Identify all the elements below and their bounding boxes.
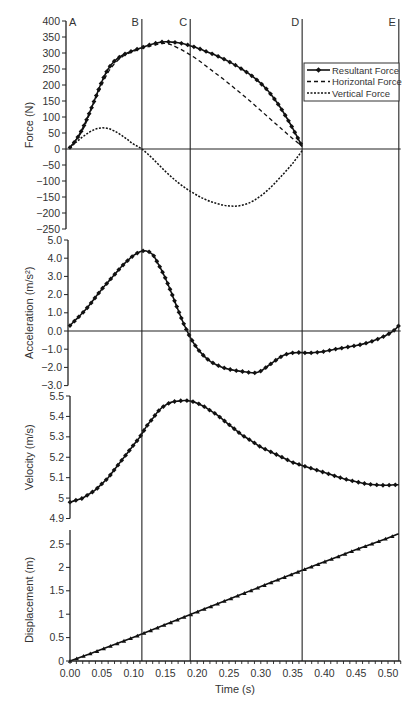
velocity-y-tick-label: 4.9 xyxy=(49,512,64,524)
displacement-y-tick-label: 0.5 xyxy=(49,631,64,643)
data-marker xyxy=(374,483,379,488)
data-marker xyxy=(308,466,313,471)
data-marker xyxy=(381,334,386,339)
data-marker xyxy=(165,281,170,286)
data-marker xyxy=(297,462,302,467)
x-axis-label: Time (s) xyxy=(215,683,255,695)
data-marker xyxy=(358,342,363,347)
data-marker xyxy=(192,44,197,49)
x-tick-label: 0.50 xyxy=(378,667,399,679)
x-tick-label: 0.15 xyxy=(155,667,176,679)
velocity-y-tick-label: 5.1 xyxy=(49,471,64,483)
data-marker xyxy=(333,347,338,352)
data-marker xyxy=(228,367,233,372)
force-y-tick-label: 200 xyxy=(42,79,60,91)
x-tick-label: 0.10 xyxy=(123,667,144,679)
acceleration-y-tick-label: 3.0 xyxy=(47,270,62,282)
displacement-y-axis-label: Displacement (m) xyxy=(23,557,35,643)
data-marker xyxy=(356,480,361,485)
data-marker xyxy=(168,287,173,292)
data-marker xyxy=(370,339,375,344)
data-marker xyxy=(240,369,245,374)
force-series-resultant-force xyxy=(70,42,302,148)
force-y-tick-label: 150 xyxy=(42,95,60,107)
acceleration-y-tick-label: 0.0 xyxy=(47,325,62,337)
displacement-y-tick-label: 2 xyxy=(58,561,64,573)
velocity-y-axis-label: Velocity (m/s) xyxy=(23,424,35,490)
displacement-series-displacement xyxy=(70,534,399,661)
force-series-vertical-force xyxy=(70,128,302,206)
text-layer: 400350300250200150100500−50−100−150−200−… xyxy=(23,15,398,696)
force-y-tick-label: 350 xyxy=(42,31,60,43)
event-label-b: B xyxy=(132,16,139,28)
legend: Resultant ForceHorizontal ForceVertical … xyxy=(304,63,402,101)
plot-layer xyxy=(68,39,401,662)
data-marker xyxy=(73,498,78,503)
velocity-y-tick-label: 5.5 xyxy=(49,390,64,402)
data-marker xyxy=(179,41,184,46)
data-marker xyxy=(177,310,182,315)
data-marker xyxy=(263,447,268,452)
force-y-tick-label: −100 xyxy=(36,175,60,187)
data-marker xyxy=(178,398,183,403)
axes-layer xyxy=(62,19,401,664)
acceleration-y-tick-label: 4.0 xyxy=(47,252,62,264)
acceleration-y-tick-label: 2.0 xyxy=(47,288,62,300)
data-marker xyxy=(216,54,221,59)
data-marker xyxy=(179,316,184,321)
x-tick-label: 0.35 xyxy=(282,667,303,679)
data-marker xyxy=(375,337,380,342)
displacement-y-tick-label: 1.5 xyxy=(49,584,64,596)
event-label-e: E xyxy=(388,16,395,28)
biomechanics-chart: 400350300250200150100500−50−100−150−200−… xyxy=(0,0,419,711)
data-marker xyxy=(196,401,201,406)
data-marker xyxy=(185,398,190,403)
velocity-y-tick-label: 5.3 xyxy=(49,430,64,442)
data-marker xyxy=(393,482,398,487)
force-y-axis-label: Force (N) xyxy=(23,102,35,148)
force-y-tick-label: 250 xyxy=(42,63,60,75)
data-marker xyxy=(185,43,190,48)
data-marker xyxy=(362,481,367,486)
data-marker xyxy=(350,478,355,483)
data-marker xyxy=(172,298,177,303)
data-marker xyxy=(252,370,257,375)
force-y-tick-label: −50 xyxy=(42,159,60,171)
legend-label: Resultant Force xyxy=(332,65,399,76)
data-marker xyxy=(303,464,308,469)
data-marker xyxy=(321,349,326,354)
legend-label: Horizontal Force xyxy=(332,76,402,87)
data-marker xyxy=(320,470,325,475)
force-series-horizontal-force xyxy=(70,43,302,147)
force-y-tick-label: 50 xyxy=(48,127,60,139)
data-marker xyxy=(296,350,301,355)
force-y-tick-label: −200 xyxy=(36,207,60,219)
x-tick-label: 0.30 xyxy=(251,667,272,679)
data-marker xyxy=(234,368,239,373)
data-marker xyxy=(339,346,344,351)
acceleration-y-tick-label: −1.0 xyxy=(41,343,62,355)
data-marker xyxy=(170,293,175,298)
acceleration-y-tick-label: 1.0 xyxy=(47,306,62,318)
acceleration-y-tick-label: 5.0 xyxy=(47,234,62,246)
data-marker xyxy=(291,460,296,465)
data-marker xyxy=(326,471,331,476)
data-marker xyxy=(174,304,179,309)
x-tick-label: 0.05 xyxy=(92,667,113,679)
data-marker xyxy=(290,350,295,355)
data-marker xyxy=(198,47,203,52)
force-y-tick-label: 300 xyxy=(42,47,60,59)
x-tick-label: 0.00 xyxy=(60,667,81,679)
velocity-y-tick-label: 5 xyxy=(58,492,64,504)
velocity-y-tick-label: 5.4 xyxy=(49,410,64,422)
force-y-tick-label: −150 xyxy=(36,191,60,203)
acceleration-y-axis-label: Acceleration (m/s²) xyxy=(23,267,35,359)
x-tick-label: 0.45 xyxy=(346,667,367,679)
data-marker xyxy=(332,473,337,478)
event-label-d: D xyxy=(291,16,299,28)
data-marker xyxy=(172,399,177,404)
x-tick-label: 0.20 xyxy=(187,667,208,679)
data-marker xyxy=(387,483,392,488)
data-marker xyxy=(309,350,314,355)
data-marker xyxy=(181,321,186,326)
